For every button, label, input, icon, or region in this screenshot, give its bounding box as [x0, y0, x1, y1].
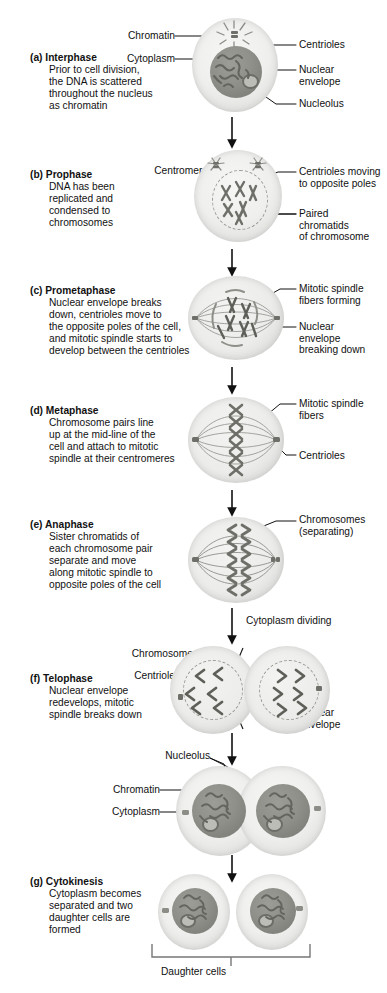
caption-head-anaphase: (e) Anaphase — [30, 519, 206, 531]
cell-pair-forming — [176, 764, 326, 858]
chromatin-strands — [176, 764, 326, 858]
label-chromatin-a: Chromatin — [95, 30, 175, 42]
label-centrioles-a: Centrioles — [299, 39, 345, 51]
stage-name: Prometaphase — [45, 285, 115, 296]
cell-anaphase — [186, 512, 286, 608]
stage-letter: (f) — [30, 673, 40, 684]
chromatin-strands-final — [158, 874, 308, 952]
label-nuclear-envelope-a: Nuclear envelope — [299, 64, 340, 87]
label-paired-chromatids-b: Paired chromatids of chromosome — [299, 208, 369, 243]
stage-name: Prophase — [46, 169, 92, 180]
label-centrioles-moving-b: Centrioles moving to opposite poles — [299, 166, 381, 189]
mitosis-figure: (a) Interphase Prior to cell division, t… — [0, 0, 387, 993]
label-chromosomes-separating-e: Chromosomes (separating) — [299, 514, 365, 537]
caption-prophase: (b) Prophase DNA has been replicated and… — [30, 169, 206, 229]
spindle-and-chromosomes — [186, 270, 286, 366]
stage-name: Metaphase — [46, 405, 99, 416]
cell-metaphase — [186, 392, 286, 488]
label-mitotic-spindle-forming-c: Mitotic spindle fibers forming — [299, 283, 364, 306]
label-nucleolus-pair: Nucleolus — [140, 750, 210, 762]
caption-head-metaphase: (d) Metaphase — [30, 405, 206, 417]
stage-description: Sister chromatids of each chromosome pai… — [30, 531, 206, 591]
cell-pair-daughters — [158, 874, 308, 952]
cell-prometaphase — [186, 270, 286, 366]
stage-name: Anaphase — [45, 519, 94, 530]
stage-letter: (g) — [30, 876, 43, 887]
label-cytoplasm-g: Cytoplasm — [85, 806, 160, 818]
stage-name: Telophase — [43, 673, 93, 684]
stage-letter: (b) — [30, 169, 43, 180]
spindle-and-aligned-chromosomes — [186, 392, 286, 488]
stage-name: Cytokinesis — [46, 876, 103, 887]
stage-description: Chromosome pairs line up at the mid-line… — [30, 417, 206, 465]
label-envelope-breaking-c: Nuclear envelope breaking down — [299, 321, 365, 356]
caption-anaphase: (e) Anaphase Sister chromatids of each c… — [30, 519, 206, 592]
stage-name: Interphase — [45, 52, 97, 63]
chromatin-and-centrioles — [190, 12, 280, 117]
label-mitotic-spindle-fibers-d: Mitotic spindle fibers — [299, 398, 364, 421]
stage-letter: (e) — [30, 519, 42, 530]
chromosomes-and-centrioles — [192, 146, 284, 246]
label-daughter-cells: Daughter cells — [0, 966, 387, 977]
label-nucleolus-a: Nucleolus — [299, 98, 344, 110]
label-centrioles-d: Centrioles — [299, 450, 345, 462]
label-chromatin-g: Chromatin — [85, 784, 160, 796]
cell-interphase — [190, 12, 280, 117]
cell-telophase — [170, 644, 330, 736]
stage-description: DNA has been replicated and condensed to… — [30, 181, 206, 229]
stage-letter: (d) — [30, 405, 43, 416]
stage-letter: (a) — [30, 52, 42, 63]
cell-prophase — [192, 146, 284, 246]
label-cytoplasm-a: Cytoplasm — [95, 53, 175, 65]
spindle-and-separating-chromatids — [186, 512, 286, 608]
stage-letter: (c) — [30, 285, 42, 296]
stage-description: Prior to cell division, the DNA is scatt… — [30, 64, 206, 112]
note-cytoplasm-dividing: Cytoplasm dividing — [246, 615, 332, 626]
telophase-chromosomes — [170, 644, 330, 736]
caption-metaphase: (d) Metaphase Chromosome pairs line up a… — [30, 405, 206, 465]
